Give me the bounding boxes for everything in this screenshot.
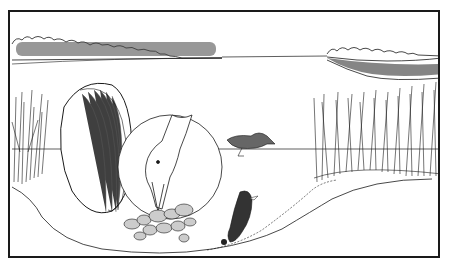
left-treeline	[12, 37, 222, 65]
lake-scene-illustration	[10, 12, 440, 258]
right-treeline	[327, 48, 440, 80]
horizon-line	[222, 56, 327, 57]
diving-duck	[221, 191, 258, 245]
swimming-duck	[227, 133, 275, 156]
left-reeds	[12, 90, 48, 184]
bottom-gravel	[207, 180, 337, 250]
right-reeds	[314, 82, 440, 182]
illustration-frame	[8, 10, 440, 258]
